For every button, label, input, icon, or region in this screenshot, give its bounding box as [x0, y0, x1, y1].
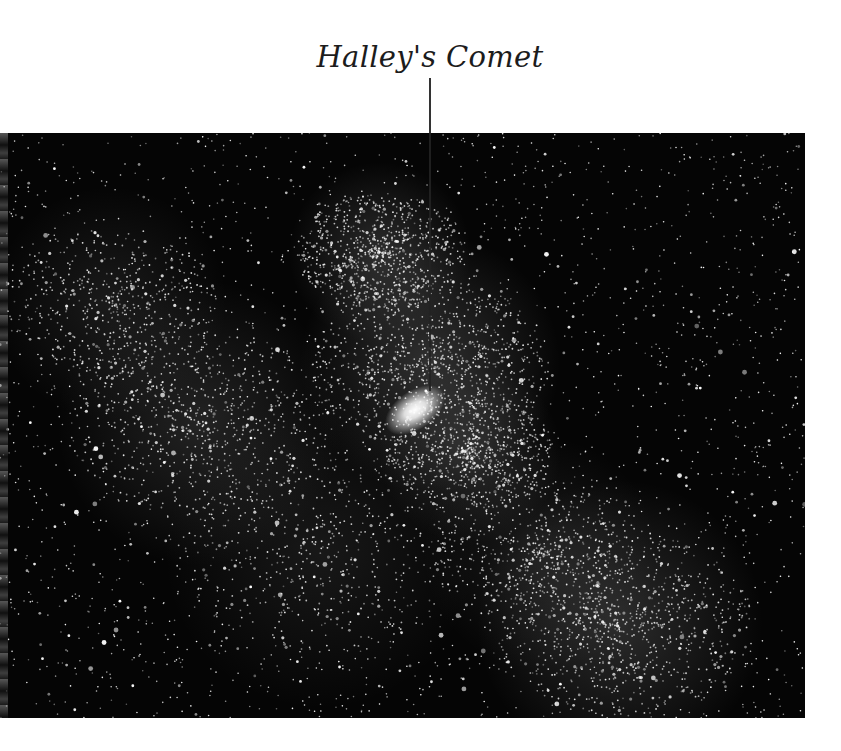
starfield-photograph — [0, 133, 805, 718]
torn-page-edge — [0, 133, 8, 718]
comet-pointer-line — [429, 133, 431, 391]
caption-leader-line — [429, 78, 431, 133]
astronomy-figure: Halley's Comet — [0, 0, 841, 751]
comet-caption-label: Halley's Comet — [0, 40, 841, 74]
starfield-canvas — [0, 133, 805, 718]
